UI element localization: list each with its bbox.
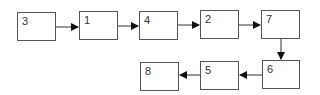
node-label: 4 [144, 14, 150, 26]
node-box-1: 1 [79, 11, 118, 40]
node-box-3: 3 [17, 12, 56, 41]
node-box-6: 6 [262, 60, 300, 89]
node-label: 7 [266, 13, 272, 25]
node-box-7: 7 [261, 10, 300, 39]
node-label: 1 [84, 14, 90, 26]
node-label: 3 [22, 15, 28, 27]
node-label: 8 [145, 65, 151, 77]
node-box-8: 8 [140, 62, 179, 91]
node-label: 2 [205, 13, 211, 25]
node-label: 6 [267, 63, 273, 75]
node-box-2: 2 [200, 10, 239, 39]
node-label: 5 [205, 64, 211, 76]
node-box-5: 5 [200, 61, 239, 90]
node-box-4: 4 [139, 11, 178, 40]
